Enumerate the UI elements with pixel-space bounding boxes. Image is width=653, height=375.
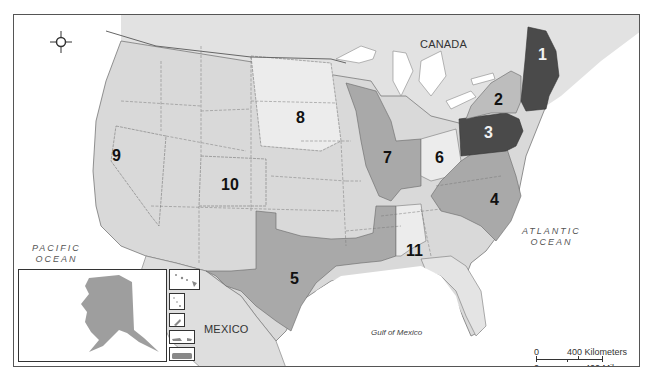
inset-virgin-islands (169, 330, 195, 344)
compass-rose (48, 29, 74, 55)
label-atlantic-ocean: ATLANTIC OCEAN (522, 226, 581, 248)
label-mexico: MEXICO (204, 323, 249, 335)
region-label-11: 11 (406, 242, 423, 260)
inset-guam (169, 313, 185, 327)
region-label-5: 5 (290, 270, 299, 288)
region-label-1: 1 (538, 46, 547, 64)
region-label-2: 2 (494, 91, 503, 109)
scale-bar: 0 400 Kilometers 0 400 Miles (530, 347, 640, 367)
region-label-9: 9 (112, 147, 121, 165)
label-gulf-of-mexico: Gulf of Mexico (371, 328, 422, 337)
scale-line (536, 359, 602, 360)
region-label-10: 10 (221, 176, 239, 194)
inset-northern-mariana (169, 293, 185, 310)
guam-shape (170, 316, 184, 328)
virgin-islands-shape (170, 333, 194, 345)
scale-tick-mi (567, 359, 568, 362)
region-label-8: 8 (296, 109, 305, 127)
atlantic-line1: ATLANTIC (522, 226, 581, 237)
inset-puerto-rico (169, 347, 195, 361)
inset-hawaii (169, 269, 200, 290)
map-frame: CANADA MEXICO PACIFIC OCEAN ATLANTIC OCE… (13, 14, 640, 367)
region-label-6: 6 (435, 149, 444, 167)
scale-tick-start (536, 356, 537, 362)
region-8-shape (251, 56, 341, 151)
atlantic-line2: OCEAN (522, 237, 581, 248)
region-label-4: 4 (490, 191, 499, 209)
pacific-line2: OCEAN (32, 254, 81, 265)
inset-alaska (18, 269, 167, 362)
scale-mi-zero: 0 (534, 363, 539, 367)
label-canada: CANADA (420, 38, 467, 50)
scale-mi-label: 400 Miles (585, 363, 624, 367)
hawaii-shape (170, 270, 199, 289)
puerto-rico-shape (170, 350, 194, 362)
mariana-shape (170, 294, 184, 309)
region-label-3: 3 (484, 124, 493, 142)
region-label-7: 7 (383, 149, 392, 167)
scale-km-label: 400 Kilometers (567, 347, 627, 357)
compass-icon (48, 29, 74, 55)
scale-tick-km (578, 356, 579, 359)
scale-tick-end (602, 356, 603, 362)
label-pacific-ocean: PACIFIC OCEAN (32, 243, 81, 265)
alaska-shape (19, 270, 166, 361)
pacific-line1: PACIFIC (32, 243, 81, 254)
